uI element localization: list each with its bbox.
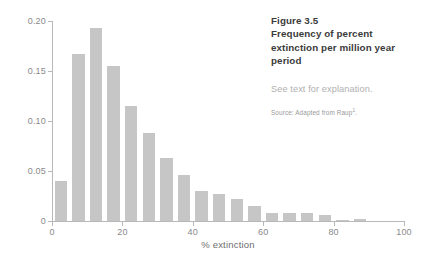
caption-title-line-3: period [271, 54, 419, 67]
histogram-bar [143, 133, 155, 221]
x-tick-mark [52, 222, 53, 226]
caption-source-text: Source: Adapted from Raup [271, 109, 352, 116]
caption-figure-label: Figure 3.5 [271, 14, 419, 27]
x-tick-mark [122, 222, 123, 226]
histogram-bar [55, 181, 67, 221]
x-tick-label: 0 [49, 227, 54, 237]
x-axis-line [52, 221, 405, 222]
caption-source-period: . [355, 109, 357, 116]
histogram-bar [319, 215, 331, 221]
histogram-bar [336, 220, 348, 221]
x-tick-mark [404, 222, 405, 226]
y-tick-label: 0.05 [28, 166, 46, 176]
y-tick-label: 0.20 [28, 16, 46, 26]
caption-source: Source: Adapted from Raup1. [271, 106, 419, 117]
histogram-bar [178, 175, 190, 221]
x-tick-label: 60 [258, 227, 268, 237]
histogram-bar [266, 213, 278, 221]
histogram-bar [125, 106, 137, 221]
histogram-bar [72, 54, 84, 221]
x-tick-mark [334, 222, 335, 226]
x-axis-title: % extinction [201, 239, 255, 250]
histogram-bar [213, 194, 225, 221]
histogram-bar [301, 213, 313, 221]
histogram-bar [90, 28, 102, 221]
caption-title: Figure 3.5 Frequency of percent extincti… [271, 14, 419, 68]
figure-caption: Figure 3.5 Frequency of percent extincti… [271, 14, 419, 117]
y-tick-label: 0 [41, 216, 46, 226]
histogram-bar [107, 66, 119, 221]
x-tick-label: 100 [396, 227, 412, 237]
histogram-bar [195, 191, 207, 221]
x-tick-label: 40 [188, 227, 198, 237]
caption-title-line-2: extinction per million year [271, 41, 419, 54]
x-tick-mark [263, 222, 264, 226]
histogram-bar [160, 158, 172, 221]
histogram-bar [354, 219, 366, 221]
caption-note: See text for explanation. [271, 83, 419, 95]
figure-3-5: 00.050.100.150.20 020406080100 Frequency… [0, 0, 425, 260]
histogram-bar [283, 213, 295, 221]
y-tick-label: 0.10 [28, 116, 46, 126]
histogram-bar [248, 206, 260, 221]
x-tick-label: 20 [117, 227, 127, 237]
x-tick-mark [193, 222, 194, 226]
y-tick-label: 0.15 [28, 66, 46, 76]
caption-title-line-1: Frequency of percent [271, 27, 419, 40]
histogram-bar [231, 199, 243, 221]
x-tick-label: 80 [328, 227, 338, 237]
